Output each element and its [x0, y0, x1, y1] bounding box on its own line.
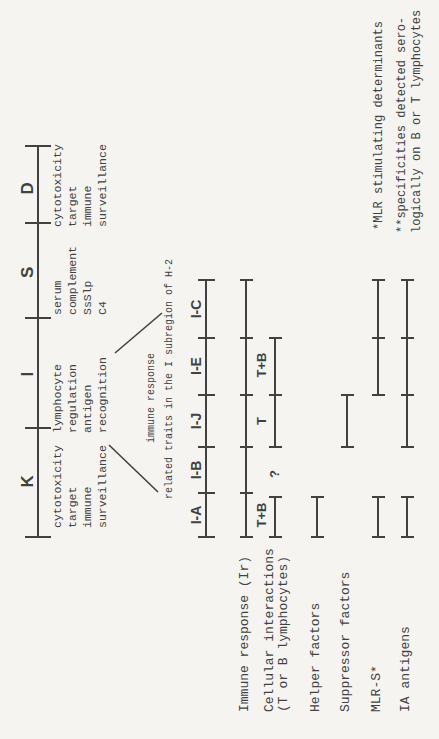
trait-row-label: Immune response (Ir)	[238, 556, 252, 712]
trait-row-label: Cellular interactions (T or B lymphocyte…	[263, 548, 291, 712]
trait-segment	[346, 395, 348, 447]
segment-tick	[401, 337, 414, 339]
trait-segment	[245, 280, 247, 537]
segment-end-tick	[240, 279, 253, 281]
segment-end-tick	[341, 394, 354, 396]
trait-annotation: T	[255, 417, 268, 425]
region-label-K: K	[19, 475, 36, 488]
trait-row-label: IA antigens	[399, 626, 413, 712]
main-axis-tick	[25, 222, 51, 224]
subregion-tick	[198, 536, 215, 538]
trait-segment	[406, 497, 408, 537]
trait-segment	[274, 338, 276, 447]
segment-tick	[240, 337, 253, 339]
region-functions-D: cytotoxicity target immune surveillance	[50, 144, 110, 227]
segment-tick	[269, 394, 282, 396]
region-label-D: D	[19, 182, 36, 195]
subregion-label-I-J: I-J	[189, 413, 203, 429]
trait-row-label: MLR-S*	[370, 665, 384, 712]
caption-line-1: immune response	[146, 353, 158, 443]
region-label-I: I	[19, 371, 36, 376]
main-axis-tick	[25, 427, 51, 429]
subregion-tick	[198, 492, 215, 494]
trait-annotation: T+B	[255, 353, 268, 378]
segment-end-tick	[372, 496, 385, 498]
segment-end-tick	[372, 279, 385, 281]
segment-end-tick	[311, 496, 324, 498]
subregion-label-I-A: I-A	[189, 506, 203, 525]
main-axis-tick	[25, 317, 51, 319]
h2-complex-diagram: Kcytotoxicity target immune surveillance…	[0, 0, 439, 739]
main-axis-line	[37, 146, 39, 537]
subregion-tick	[198, 446, 215, 448]
trait-segment	[406, 280, 408, 447]
segment-end-tick	[401, 496, 414, 498]
segment-tick	[240, 446, 253, 448]
segment-end-tick	[269, 496, 282, 498]
subregion-label-I-E: I-E	[189, 357, 203, 375]
main-axis-tick	[25, 536, 51, 538]
subregion-label-I-C: I-C	[189, 300, 203, 319]
trait-segment	[316, 497, 318, 537]
region-functions-I: lymphocyte regulation antigen recognitio…	[50, 357, 110, 433]
segment-end-tick	[401, 279, 414, 281]
trait-segment	[274, 497, 276, 537]
subregion-axis-line	[205, 280, 207, 537]
subregion-tick	[198, 279, 215, 281]
trait-annotation: ?	[268, 470, 281, 478]
segment-end-tick	[341, 446, 354, 448]
segment-end-tick	[269, 337, 282, 339]
segment-end-tick	[372, 536, 385, 538]
segment-end-tick	[269, 536, 282, 538]
segment-end-tick	[240, 536, 253, 538]
connector-line	[115, 313, 162, 353]
caption-line-2: related traits in the I subregion of H-2	[164, 259, 176, 499]
segment-end-tick	[372, 394, 385, 396]
segment-tick	[372, 337, 385, 339]
segment-tick	[240, 394, 253, 396]
main-axis-tick	[25, 145, 51, 147]
segment-end-tick	[401, 536, 414, 538]
trait-segment	[377, 497, 379, 537]
trait-row-label: Suppressor factors	[339, 572, 353, 712]
subregion-tick	[198, 394, 215, 396]
segment-tick	[240, 492, 253, 494]
footnote-2: **specificities detected sero- logically…	[395, 10, 425, 233]
segment-tick	[401, 394, 414, 396]
trait-row-label: Helper factors	[309, 603, 323, 712]
region-functions-K: cytotoxicity target immune surveillance	[50, 445, 110, 528]
connector-line	[109, 445, 158, 492]
figure-scan: Kcytotoxicity target immune surveillance…	[0, 0, 439, 739]
segment-end-tick	[401, 446, 414, 448]
subregion-tick	[198, 337, 215, 339]
region-functions-S: serum complement SsSlp C4	[50, 246, 110, 315]
region-label-S: S	[19, 266, 36, 278]
segment-end-tick	[269, 446, 282, 448]
footnote-1: *MLR stimulating determinants	[372, 21, 387, 230]
subregion-label-I-B: I-B	[189, 461, 203, 480]
trait-annotation: T+B	[255, 503, 268, 528]
segment-end-tick	[311, 536, 324, 538]
